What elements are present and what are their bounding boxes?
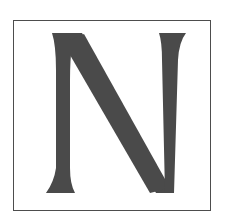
diagonal-body [70,34,170,193]
right-stem [159,33,186,193]
letter-n-glyph [0,0,229,224]
